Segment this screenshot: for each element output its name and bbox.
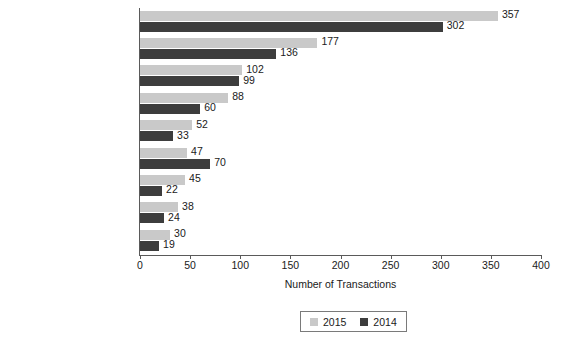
bar-2014: [140, 241, 159, 251]
x-tick-label: 350: [482, 259, 500, 271]
bar-value-label: 52: [196, 119, 208, 129]
bar-value-label: 136: [280, 47, 298, 57]
bar-2014: [140, 49, 276, 59]
legend-label: 2015: [323, 317, 346, 327]
x-tick-label: 150: [282, 259, 300, 271]
x-tick-label: 50: [184, 259, 196, 271]
chart-legend: 20152014: [300, 311, 407, 332]
bar-2015: [140, 11, 498, 21]
x-tick-label: 100: [231, 259, 249, 271]
bar-2015: [140, 148, 187, 158]
bar-value-label: 45: [189, 173, 201, 183]
bar-2014: [140, 76, 239, 86]
bar-2014: [140, 131, 173, 141]
legend-entry: 2015: [310, 317, 346, 327]
bar-value-label: 30: [174, 228, 186, 238]
chart-category-row: Other Services177136: [140, 35, 541, 62]
chart-category-row: Long-Term Care357302: [140, 8, 541, 35]
legend-swatch-icon: [360, 318, 368, 326]
plot-area: Long-Term Care357302Other Services177136…: [140, 8, 541, 255]
bar-value-label: 47: [191, 146, 203, 156]
x-tick-label: 400: [532, 259, 550, 271]
chart-category-row: Home Health & Hospice4770: [140, 145, 541, 172]
bar-value-label: 177: [321, 36, 339, 46]
x-axis-label: Number of Transactions: [139, 278, 542, 290]
legend-label: 2014: [373, 317, 396, 327]
bar-2014: [140, 159, 210, 169]
legend-swatch-icon: [310, 318, 318, 326]
x-tick-label: 0: [137, 259, 143, 271]
bar-2014: [140, 186, 162, 196]
bar-value-label: 70: [214, 157, 226, 167]
bar-value-label: 99: [243, 75, 255, 85]
bar-2015: [140, 175, 185, 185]
bar-2014: [140, 213, 164, 223]
x-tick-label: 300: [432, 259, 450, 271]
x-tick-label: 250: [382, 259, 400, 271]
bar-value-label: 357: [502, 9, 520, 19]
chart-category-row: Behavioral Health Care3824: [140, 200, 541, 227]
bar-2014: [140, 104, 200, 114]
chart-category-row: Physician Medical Groups8860: [140, 90, 541, 117]
bar-value-label: 24: [168, 212, 180, 222]
bar-2014: [140, 22, 443, 32]
chart-category-row: Managed Care4522: [140, 172, 541, 199]
bar-value-label: 19: [163, 239, 175, 249]
chart-category-row: Rehabilitation3019: [140, 227, 541, 254]
bar-value-label: 102: [246, 64, 264, 74]
bar-chart: Long-Term Care357302Other Services177136…: [0, 0, 575, 345]
legend-entry: 2014: [360, 317, 396, 327]
chart-category-row: Labs, MRI, & Dialysis5233: [140, 118, 541, 145]
bar-value-label: 33: [177, 130, 189, 140]
bar-value-label: 60: [204, 102, 216, 112]
chart-category-row: Hospital10299: [140, 63, 541, 90]
bar-value-label: 38: [182, 201, 194, 211]
bar-value-label: 302: [447, 20, 465, 30]
bar-2015: [140, 65, 242, 75]
bar-value-label: 22: [166, 184, 178, 194]
x-tick-label: 200: [332, 259, 350, 271]
bar-value-label: 88: [232, 91, 244, 101]
